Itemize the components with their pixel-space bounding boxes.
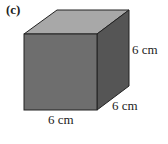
- height-label: 6 cm: [132, 42, 158, 58]
- part-label: (c): [6, 2, 20, 18]
- cube-diagram: [0, 0, 168, 144]
- cube-front-face: [24, 34, 97, 110]
- width-label: 6 cm: [48, 112, 74, 128]
- depth-label: 6 cm: [112, 98, 138, 114]
